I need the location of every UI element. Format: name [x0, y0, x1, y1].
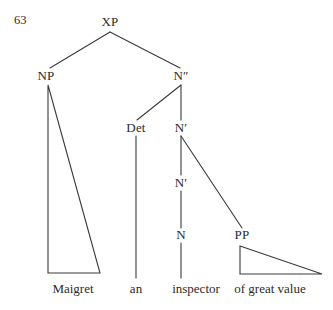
node-xp: XP: [101, 14, 118, 30]
node-n-head: N: [176, 227, 186, 243]
node-n-prime-upper: N′: [175, 120, 188, 136]
np-triangle: [48, 85, 100, 273]
n2-to-det: [137, 85, 181, 120]
xp-to-np: [50, 32, 110, 68]
n1-to-pp: [181, 136, 242, 228]
node-np: NP: [37, 68, 54, 84]
terminal-of-great-value: of great value: [234, 281, 305, 297]
pp-triangle: [240, 246, 322, 274]
tree-lines: [0, 0, 333, 310]
node-n-double-prime: N″: [173, 68, 188, 84]
terminal-inspector: inspector: [172, 281, 220, 297]
xp-to-n2: [110, 32, 180, 68]
node-det: Det: [126, 120, 145, 136]
syntax-tree-figure: 63 XP NP N″ Det N′ N′ N PP Maigret an in…: [0, 0, 333, 310]
terminal-an: an: [130, 281, 142, 297]
node-n-prime-lower: N′: [175, 175, 188, 191]
terminal-maigret: Maigret: [52, 281, 93, 297]
node-pp: PP: [235, 227, 250, 243]
